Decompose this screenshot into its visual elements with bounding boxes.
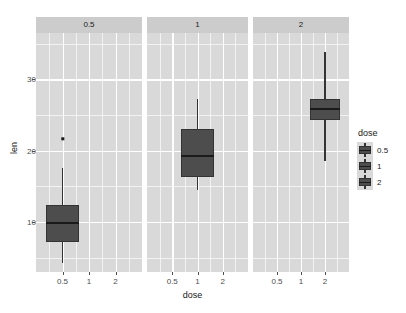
- legend-entry: 1: [357, 158, 388, 174]
- x-tick-mark: [325, 272, 326, 275]
- x-tick-mark: [223, 272, 224, 275]
- gridline-major-vertical: [172, 33, 173, 272]
- boxplot-box: [181, 129, 213, 178]
- gridline-major-vertical: [223, 33, 224, 272]
- legend: dose 0.512: [357, 128, 388, 190]
- y-tick-mark: [32, 222, 35, 223]
- x-axis-title: dose: [36, 290, 349, 300]
- boxplot-median-line: [46, 222, 80, 224]
- x-tick-mark: [63, 272, 64, 275]
- facet-strip: 1: [147, 17, 248, 33]
- gridline-minor-vertical: [313, 33, 314, 272]
- panel: [36, 33, 142, 272]
- x-tick-mark: [172, 272, 173, 275]
- x-tick-label: 2: [323, 277, 327, 286]
- facet-strip: 2: [253, 17, 349, 33]
- x-tick-label: 1: [87, 277, 91, 286]
- gridline-minor-vertical: [289, 33, 290, 272]
- x-tick-label: 2: [113, 277, 117, 286]
- panel: [253, 33, 349, 272]
- legend-title: dose: [358, 128, 388, 138]
- gridline-major-vertical: [301, 33, 302, 272]
- legend-entry-label: 0.5: [377, 146, 388, 155]
- x-tick-mark: [89, 272, 90, 275]
- gridline-major-vertical: [116, 33, 117, 272]
- legend-key-icon: [357, 158, 373, 174]
- legend-entries: 0.512: [357, 142, 388, 190]
- gridline-major-vertical: [89, 33, 90, 272]
- legend-entry-label: 1: [377, 162, 381, 171]
- gridline-minor-vertical: [265, 33, 266, 272]
- facet-strip-label: 2: [299, 21, 303, 29]
- x-tick-mark: [198, 272, 199, 275]
- x-tick-label: 0.5: [167, 277, 178, 286]
- y-axis: 102030: [0, 0, 36, 313]
- legend-key-icon: [357, 174, 373, 190]
- gridline-minor-vertical: [102, 33, 103, 272]
- x-tick-mark: [277, 272, 278, 275]
- panel: [147, 33, 248, 272]
- x-tick-mark: [301, 272, 302, 275]
- x-tick-label: 0.5: [271, 277, 282, 286]
- x-tick-label: 1: [299, 277, 303, 286]
- gridline-major-vertical: [277, 33, 278, 272]
- boxplot-figure: len 102030 0.50.51210.51220.512 dose dos…: [0, 0, 406, 313]
- gridline-minor-vertical: [235, 33, 236, 272]
- x-tick-label: 0.5: [57, 277, 68, 286]
- legend-entry: 0.5: [357, 142, 388, 158]
- x-tick-label: 1: [195, 277, 199, 286]
- y-tick-mark: [32, 79, 35, 80]
- legend-entry-label: 2: [377, 178, 381, 187]
- boxplot-median-line: [181, 155, 213, 157]
- gridline-minor-vertical: [337, 33, 338, 272]
- boxplot-median-line: [310, 108, 341, 110]
- gridline-minor-vertical: [129, 33, 130, 272]
- y-tick-mark: [32, 151, 35, 152]
- x-tick-mark: [116, 272, 117, 275]
- facet-strip-label: 0.5: [83, 21, 94, 29]
- facet-strip-label: 1: [195, 21, 199, 29]
- legend-key-icon: [357, 142, 373, 158]
- gridline-minor-vertical: [160, 33, 161, 272]
- boxplot-outlier-point: [61, 137, 64, 140]
- facet-strip: 0.5: [36, 17, 142, 33]
- legend-entry: 2: [357, 174, 388, 190]
- x-tick-label: 2: [221, 277, 225, 286]
